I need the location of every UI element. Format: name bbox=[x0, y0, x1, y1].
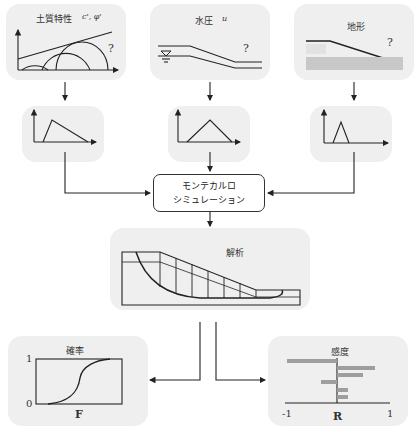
monte-carlo-line1: モンテカルロ bbox=[154, 179, 264, 193]
water-title: 水圧 bbox=[195, 14, 213, 27]
probability-y-bottom: 0 bbox=[26, 398, 32, 409]
monte-carlo-line2: シミュレーション bbox=[154, 193, 264, 207]
probability-y-top: 1 bbox=[26, 353, 32, 364]
probability-x-label: F bbox=[75, 408, 83, 421]
terrain-title: 地形 bbox=[347, 20, 365, 33]
sensitivity-x-right: 1 bbox=[387, 408, 393, 419]
probability-title: 確率 bbox=[66, 344, 84, 357]
sensitivity-title: 感度 bbox=[331, 345, 349, 358]
monte-carlo-box: モンテカルロ シミュレーション bbox=[153, 174, 265, 212]
water-unknown: ? bbox=[243, 42, 249, 55]
water-params: u bbox=[222, 14, 227, 23]
sensitivity-x-left: -1 bbox=[282, 408, 292, 419]
diagram-graphics bbox=[0, 0, 420, 432]
soil-unknown: ? bbox=[108, 42, 114, 55]
soil-title: 土質特性 bbox=[36, 12, 72, 25]
analysis-title: 解析 bbox=[226, 246, 244, 259]
soil-params: c', φ' bbox=[82, 12, 102, 21]
sensitivity-x-label: R bbox=[333, 410, 342, 423]
terrain-unknown: ? bbox=[387, 36, 393, 49]
